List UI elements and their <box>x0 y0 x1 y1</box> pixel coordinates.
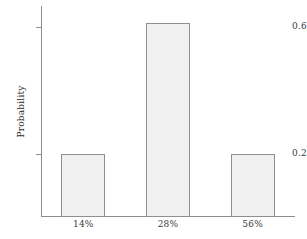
bar-56-percent <box>231 154 275 217</box>
x-tick-label-0: 14% <box>53 220 113 229</box>
plot-area <box>41 6 295 217</box>
x-tick-label-2: 56% <box>223 220 283 229</box>
bar-14-percent <box>61 154 105 217</box>
probability-bar-chart: Probability 0.2 0.6 14% 28% 56% <box>0 0 307 239</box>
x-tick-label-1: 28% <box>138 220 198 229</box>
bar-28-percent <box>146 23 190 217</box>
y-axis-title: Probability <box>14 6 28 217</box>
